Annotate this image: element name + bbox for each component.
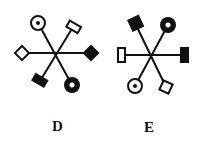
ring-center	[166, 23, 171, 28]
figure-e-label: E	[144, 120, 154, 135]
circle-dot	[36, 21, 40, 25]
diagram-canvas	[0, 0, 201, 142]
hollow-diamond-icon	[15, 46, 29, 60]
figure-d-label: D	[52, 119, 63, 134]
figure-d	[15, 16, 98, 92]
figure-e	[118, 16, 188, 94]
filled-rectangle-icon	[32, 74, 47, 87]
filled-diamond-icon	[84, 46, 98, 60]
filled-vertical-rectangle-icon	[181, 48, 188, 62]
circle-dot	[133, 84, 137, 88]
hollow-rectangle-icon	[66, 21, 81, 34]
hollow-vertical-rectangle-icon	[118, 48, 125, 62]
filled-square-icon	[128, 16, 143, 31]
hollow-square-icon	[159, 80, 172, 93]
ring-center	[70, 83, 75, 88]
